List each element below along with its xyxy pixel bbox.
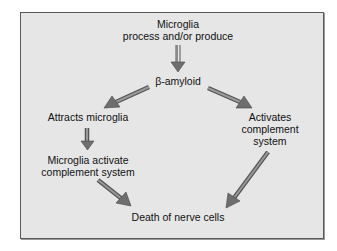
arrow-top-to-amyloid [171,45,185,72]
node-activates-complement: Activates complement system [230,111,310,147]
node-microglia-process: Microglia process and/or produce [108,18,248,42]
node-activates-line2: complement [230,123,310,135]
node-beta-amyloid-text: β-amyloid [155,75,201,87]
node-microglia-activate-complement: Microglia activate complement system [38,154,138,178]
node-death-of-nerve-cells: Death of nerve cells [128,211,228,223]
node-microglia-process-line2: process and/or produce [108,30,248,42]
arrow-amyloid-to-attracts [104,87,149,108]
node-microglia-activate-line2: complement system [38,166,138,178]
node-activates-line3: system [230,135,310,147]
arrow-microglia-activate-to-death [98,180,131,206]
arrow-attracts-to-microglia-activate [81,128,94,150]
node-attracts-microglia-text: Attracts microglia [48,111,129,123]
arrow-activates-to-death [226,152,268,208]
node-activates-line1: Activates [230,111,310,123]
node-attracts-microglia: Attracts microglia [38,111,138,123]
arrow-amyloid-to-activates [208,88,252,108]
node-microglia-activate-line1: Microglia activate [38,154,138,166]
node-death-text: Death of nerve cells [132,211,225,223]
node-beta-amyloid: β-amyloid [138,75,218,87]
node-microglia-process-line1: Microglia [108,18,248,30]
